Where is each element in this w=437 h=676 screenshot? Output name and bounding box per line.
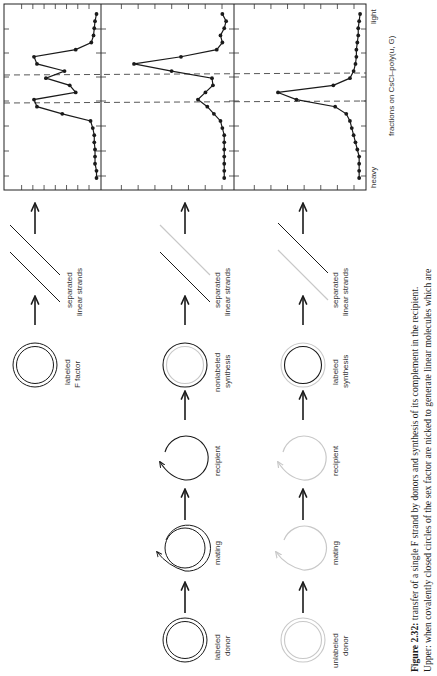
data-point [354, 140, 358, 144]
data-point [354, 62, 358, 66]
step-label: separated [65, 272, 74, 308]
strand-labeled [10, 252, 60, 302]
data-point [222, 169, 226, 173]
data-point [357, 19, 361, 23]
data-point [222, 162, 226, 166]
data-point [63, 69, 67, 73]
step-label: unlabeled [331, 633, 340, 668]
data-point [91, 126, 95, 130]
data-point [93, 162, 97, 166]
data-point [344, 112, 348, 116]
data-point [89, 119, 93, 123]
data-point [92, 26, 96, 30]
data-point [350, 126, 354, 130]
recipient-strand [278, 436, 326, 480]
chart-frame [4, 4, 366, 190]
data-point [276, 91, 280, 95]
data-point [352, 69, 356, 73]
data-point [92, 33, 96, 37]
data-point [222, 176, 226, 180]
data-point [219, 33, 223, 37]
data-point [222, 133, 226, 137]
data-point [74, 48, 78, 52]
data-point [357, 162, 361, 166]
data-point [179, 55, 183, 59]
step-label: labeled [63, 359, 72, 385]
data-point [210, 76, 214, 80]
data-point [220, 126, 224, 130]
data-point [44, 76, 48, 80]
step-label: linear strands [75, 268, 84, 316]
data-point [95, 169, 99, 173]
data-point [60, 112, 64, 116]
data-point [354, 55, 358, 59]
data-point [352, 133, 356, 137]
data-point [205, 105, 209, 109]
chart-panels: heavy light fractions on CsCl–poly(u, G) [4, 4, 396, 190]
data-point [220, 41, 224, 45]
step-label: separated [213, 272, 222, 308]
strand-labeled [160, 252, 210, 302]
data-point [204, 91, 208, 95]
axis-xlabel: fractions on CsCl–poly(u, G) [387, 35, 396, 136]
data-point [224, 19, 228, 23]
data-point [74, 91, 78, 95]
step-label: recipient [331, 445, 340, 476]
data-point [196, 98, 200, 102]
plasmid-inner-strand [167, 622, 204, 659]
recipient-strand [160, 436, 208, 480]
data-point [92, 140, 96, 144]
transferred-strand [276, 526, 326, 570]
plasmid-inner-strand [285, 347, 322, 384]
data-point [222, 140, 226, 144]
data-point [333, 105, 337, 109]
figure-canvas: heavy light fractions on CsCl–poly(u, G)… [0, 0, 437, 676]
plasmid-outer-strand [281, 343, 325, 387]
step-label: donor [341, 635, 350, 656]
data-point [93, 155, 97, 159]
data-point [35, 105, 39, 109]
caption-line-1: Figure 2.32: transfer of a single F stra… [409, 287, 420, 672]
plasmid-outer-strand [281, 618, 325, 662]
data-point [354, 48, 358, 52]
data-point [95, 12, 99, 16]
row-1: separated linear strands labeled F facto… [10, 204, 84, 388]
axis-light-label: light [369, 9, 378, 24]
data-point [222, 155, 226, 159]
plasmid-inner-strand [17, 347, 54, 384]
data-point [68, 83, 72, 87]
caption-text-1: transfer of a single F strand by donors … [409, 287, 420, 621]
data-point [32, 55, 36, 59]
chart-curves [32, 12, 362, 180]
data-point [35, 62, 39, 66]
data-point [355, 41, 359, 45]
step-label: recipient [213, 445, 222, 476]
plasmid-inner-strand [167, 347, 204, 384]
data-point [93, 19, 97, 23]
data-point [358, 12, 362, 16]
step-label: labeled [331, 359, 340, 385]
plasmid-outer-strand [13, 343, 57, 387]
data-point [222, 148, 226, 152]
data-point [215, 48, 219, 52]
axis-ticks [4, 4, 366, 190]
step-label: mating [213, 541, 222, 565]
step-label: separated [331, 272, 340, 308]
data-point [355, 148, 359, 152]
data-point [222, 26, 226, 30]
data-line [34, 14, 97, 178]
data-point [89, 41, 93, 45]
step-label: synthesis [341, 355, 350, 388]
step-label: nonlabeled [213, 353, 222, 392]
step-label: linear strands [341, 268, 350, 316]
figure-caption: Figure 2.32: transfer of a single F stra… [409, 269, 433, 672]
data-point [95, 176, 99, 180]
step-label: labeled [213, 634, 222, 660]
data-point [132, 62, 136, 66]
step-label: mating [331, 541, 340, 565]
data-point [357, 169, 361, 173]
data-point [92, 133, 96, 137]
strand-unlabeled [278, 250, 328, 300]
data-point [212, 112, 216, 116]
row-3: separated linear strands labeled synthes… [276, 204, 350, 668]
